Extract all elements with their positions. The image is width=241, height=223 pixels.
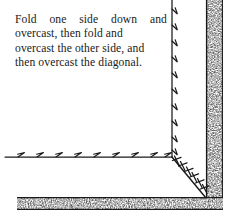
horizontal-folded-edge-seam xyxy=(5,153,172,157)
stitch-illustration xyxy=(0,0,241,223)
horizontal-seam-stitches xyxy=(18,153,172,157)
right-raw-edge-band xyxy=(206,0,223,198)
figure-root: Fold one side down and overcast, then fo… xyxy=(0,0,241,223)
bottom-raw-edge-band xyxy=(17,197,223,210)
diagonal-mitre-seam xyxy=(172,156,209,198)
fabric-edge-bands xyxy=(17,0,223,210)
diagonal-seam-cross-stitches xyxy=(173,156,210,194)
vertical-folded-edge-seam xyxy=(172,0,177,157)
vertical-seam-stitches xyxy=(172,8,177,155)
